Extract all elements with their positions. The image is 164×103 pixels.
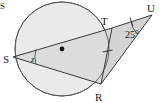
corner-artifact-glyph: S xyxy=(0,1,5,11)
point-label-s: S xyxy=(3,53,9,65)
angle-label-25-degrees: 25° xyxy=(125,29,139,40)
point-label-u: U xyxy=(147,2,155,14)
point-label-t: T xyxy=(101,15,108,27)
geometry-canvas: S T R U z 25° S xyxy=(0,0,164,103)
angle-label-z: z xyxy=(30,54,35,64)
center-point-dot xyxy=(60,47,65,52)
point-label-r: R xyxy=(95,91,103,103)
geometry-figure: S T R U z 25° S xyxy=(0,0,164,103)
